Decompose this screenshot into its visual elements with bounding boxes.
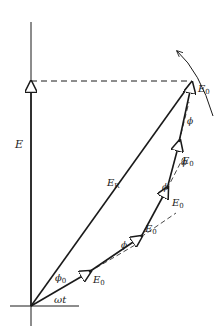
phasor-4: [167, 140, 180, 189]
label-phi-1: ϕ: [121, 240, 127, 250]
label-phi-2: ϕ: [162, 182, 168, 192]
label-e0-2: E0: [144, 223, 157, 236]
label-wt: ωt: [54, 294, 67, 305]
rotation-arrow: [177, 51, 213, 116]
phasor-diagram: E ER ϕ0 ωt E0 E0 E0 E0 E0 ϕ ϕ ϕ ϕ: [0, 0, 224, 334]
label-e0-5: E0: [197, 83, 210, 96]
label-phi-4: ϕ: [187, 116, 193, 126]
axes: [10, 22, 79, 326]
label-e-axis: E: [14, 138, 23, 151]
label-phi-3: ϕ: [181, 157, 187, 167]
extension-1: [89, 245, 135, 272]
phase-extension-lines: [89, 102, 189, 272]
phasor-2: [89, 236, 142, 272]
label-phi0: ϕ0: [55, 272, 66, 285]
label-e0-3: E0: [171, 197, 184, 210]
label-resultant: ER: [106, 177, 120, 190]
label-e0-1: E0: [92, 274, 105, 287]
